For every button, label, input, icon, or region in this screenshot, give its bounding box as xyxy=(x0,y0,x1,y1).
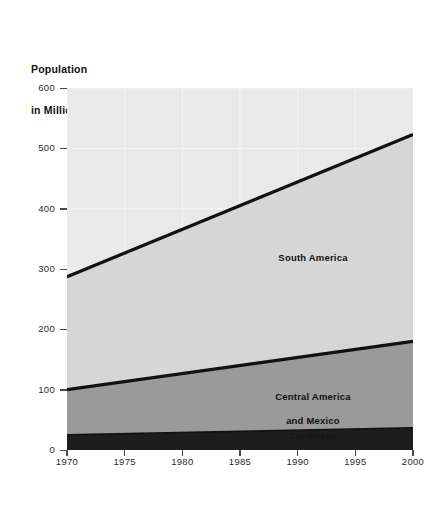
x-axis-tick-label: 1970 xyxy=(46,456,88,467)
x-axis-tick-label: 1995 xyxy=(334,456,376,467)
series-label-central-america-line2: and Mexico xyxy=(286,415,340,426)
series-label-caribbean: Caribbean xyxy=(253,430,373,442)
series-label-central-america: Central America and Mexico xyxy=(243,379,383,427)
x-axis-tick-label: 1990 xyxy=(277,456,319,467)
x-axis-labels: 1970197519801985199019952000 xyxy=(0,456,448,474)
population-area-chart: Population in Millions 01002003004005006… xyxy=(0,0,448,505)
x-axis-tick-label: 1975 xyxy=(104,456,146,467)
x-axis-tick-label: 2000 xyxy=(392,456,434,467)
series-label-central-america-line1: Central America xyxy=(275,391,351,402)
x-axis-tick-label: 1985 xyxy=(219,456,261,467)
x-axis-tick-label: 1980 xyxy=(161,456,203,467)
series-label-south-america: South America xyxy=(243,252,383,264)
